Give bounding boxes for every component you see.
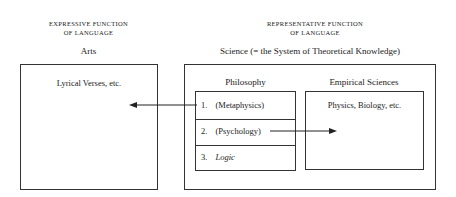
arrow-metaphysics-to-arts <box>129 102 197 108</box>
arrows-layer <box>0 0 456 197</box>
arrow-psychology-to-empirical <box>270 128 337 134</box>
